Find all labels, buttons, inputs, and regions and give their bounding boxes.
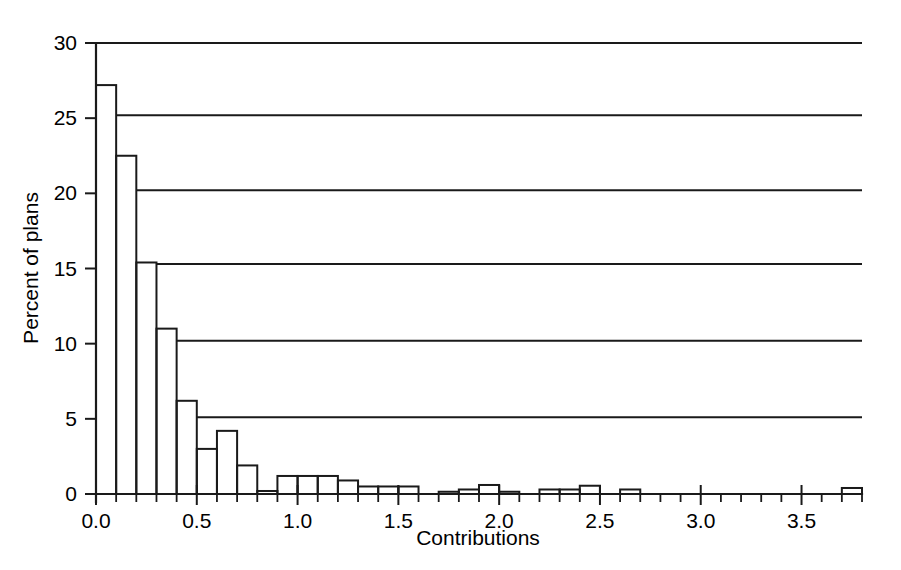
y-tick-label: 25: [54, 106, 77, 129]
y-tick-label: 15: [54, 257, 77, 280]
histogram-bar: [96, 85, 116, 494]
histogram-bar: [378, 486, 398, 494]
histogram-bar: [237, 465, 257, 494]
y-tick-label: 5: [65, 407, 77, 430]
histogram-bar: [318, 476, 338, 494]
x-axis-title: Contributions: [416, 526, 540, 549]
y-axis: [85, 43, 96, 502]
y-tick-label: 0: [65, 482, 77, 505]
histogram-bar: [116, 156, 136, 494]
y-tick-label: 30: [54, 31, 77, 54]
histogram-bar: [217, 431, 237, 494]
histogram-bar: [358, 486, 378, 494]
histogram-bar: [580, 486, 600, 494]
histogram-bar: [177, 401, 197, 494]
x-tick-label: 1.0: [283, 509, 312, 532]
y-tick-label: 10: [54, 332, 77, 355]
bars-group: [96, 85, 862, 494]
y-axis-title: Percent of plans: [19, 192, 42, 344]
x-axis: [88, 485, 862, 505]
x-tick-label: 2.5: [585, 509, 614, 532]
histogram-bar: [156, 329, 176, 494]
x-tick-label: 1.5: [384, 509, 413, 532]
y-tick-label: 20: [54, 181, 77, 204]
histogram-bar: [136, 262, 156, 494]
gridlines-group: [96, 43, 862, 417]
histogram-bar: [479, 485, 499, 494]
histogram-bar: [298, 476, 318, 494]
histogram-bar: [277, 476, 297, 494]
x-tick-label: 0.5: [182, 509, 211, 532]
histogram-bar: [197, 449, 217, 494]
y-tick-labels: 051015202530: [54, 31, 77, 505]
histogram-bar: [338, 480, 358, 494]
x-tick-label: 0.0: [81, 509, 110, 532]
histogram-plot: 0.00.51.01.52.02.53.03.5 051015202530 Co…: [0, 0, 901, 570]
x-tick-label: 3.0: [686, 509, 715, 532]
x-tick-label: 3.5: [787, 509, 816, 532]
histogram-figure: 0.00.51.01.52.02.53.03.5 051015202530 Co…: [0, 0, 901, 570]
histogram-bar: [398, 486, 418, 494]
